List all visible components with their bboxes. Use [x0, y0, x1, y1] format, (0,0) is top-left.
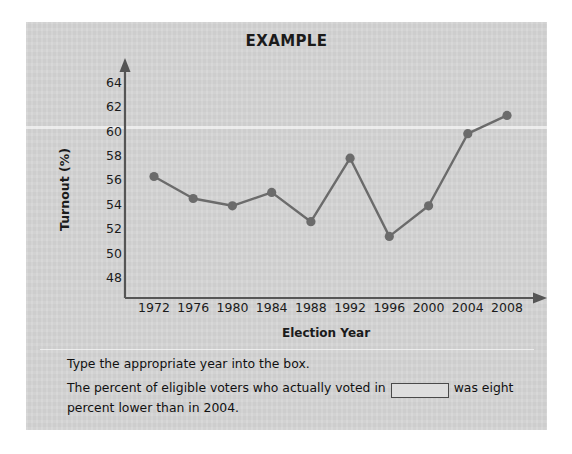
x-axis-tick-label: 1996	[367, 300, 411, 315]
data-point	[149, 172, 158, 181]
turnout-series-markers	[149, 111, 511, 241]
x-axis-tick-label: 1972	[132, 300, 176, 315]
x-axis-tick-label: 1976	[171, 300, 215, 315]
data-point	[385, 232, 394, 241]
x-axis-tick-label: 1984	[250, 300, 294, 315]
y-axis-tick-label: 52	[88, 221, 122, 236]
y-axis-tick-label: 48	[88, 270, 122, 285]
instructions-panel: Type the appropriate year into the box. …	[67, 354, 537, 418]
data-point	[502, 111, 511, 120]
section-divider	[40, 349, 534, 350]
y-axis-title: Turnout (%)	[57, 130, 72, 250]
data-point	[189, 194, 198, 203]
y-axis-tick-label: 58	[88, 148, 122, 163]
data-point	[424, 201, 433, 210]
turnout-series-line	[154, 115, 507, 236]
question-text-before: The percent of eligible voters who actua…	[67, 380, 386, 395]
answer-input[interactable]	[391, 383, 449, 398]
y-axis-tick-label: 56	[88, 172, 122, 187]
question-statement: The percent of eligible voters who actua…	[67, 378, 537, 418]
data-point	[306, 217, 315, 226]
x-axis-tick-label: 2008	[485, 300, 529, 315]
y-axis-tick-label: 50	[88, 246, 122, 261]
data-point	[463, 129, 472, 138]
data-point	[346, 154, 355, 163]
y-axis-ticks: 646260585654525048	[88, 22, 122, 322]
instruction-line: Type the appropriate year into the box.	[67, 354, 537, 374]
y-axis-tick-label: 60	[88, 124, 122, 139]
x-axis-tick-label: 2000	[407, 300, 451, 315]
x-axis-title: Election Year	[206, 326, 446, 340]
y-axis-tick-label: 62	[88, 99, 122, 114]
data-point	[228, 201, 237, 210]
question-card: EXAMPLE Turnout (%) 646260585654525048 1…	[26, 22, 547, 430]
x-axis-tick-label: 1992	[328, 300, 372, 315]
x-axis-tick-label: 1980	[210, 300, 254, 315]
x-axis-tick-label: 1988	[289, 300, 333, 315]
x-axis-tick-label: 2004	[446, 300, 490, 315]
y-axis-tick-label: 54	[88, 197, 122, 212]
data-point	[267, 188, 276, 197]
x-axis-ticks: 1972197619801984198819921996200020042008	[26, 300, 547, 324]
y-axis-tick-label: 64	[88, 75, 122, 90]
